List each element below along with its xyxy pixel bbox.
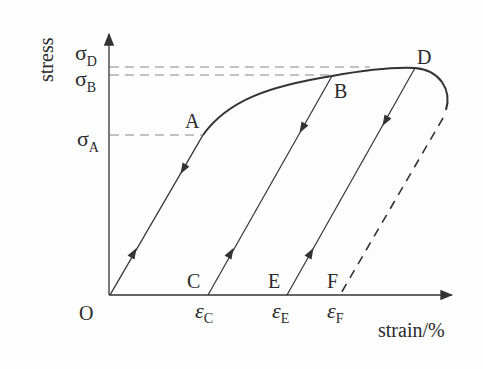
- point-e-label: E: [268, 270, 280, 292]
- point-c-label: C: [187, 270, 200, 292]
- x-axis-label: strain/%: [378, 319, 445, 341]
- arrow-up-icon: [305, 246, 317, 260]
- point-f-label: F: [327, 270, 338, 292]
- diagram-canvas: stress strain/% O σD σB σA A B D C E F ε…: [0, 0, 483, 369]
- point-b-label: B: [334, 80, 347, 102]
- dashed-line-f: [340, 118, 443, 295]
- arrow-down-icon: [177, 163, 189, 177]
- sigma-d-label: σD: [75, 40, 97, 69]
- sigma-b-label: σB: [75, 66, 96, 95]
- point-d-label: D: [417, 46, 431, 68]
- epsilon-f-label: εF: [327, 298, 344, 326]
- origin-label: O: [79, 302, 93, 324]
- y-axis-label: stress: [35, 37, 57, 82]
- arrow-down-icon: [296, 122, 308, 136]
- epsilon-e-label: εE: [272, 298, 289, 326]
- epsilon-c-label: εC: [195, 298, 213, 326]
- sigma-a-label: σA: [77, 126, 100, 155]
- stress-strain-diagram: stress strain/% O σD σB σA A B D C E F ε…: [0, 0, 483, 369]
- unloading-line-de: [287, 68, 415, 295]
- point-a-label: A: [185, 110, 200, 132]
- yield-curve: [203, 68, 448, 135]
- arrow-down-icon: [379, 115, 391, 129]
- unloading-line-bc: [208, 76, 332, 295]
